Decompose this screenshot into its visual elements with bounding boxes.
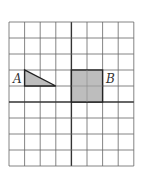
grid-diagram xyxy=(0,0,141,173)
label-b: B xyxy=(106,73,115,85)
label-a: A xyxy=(13,73,22,85)
